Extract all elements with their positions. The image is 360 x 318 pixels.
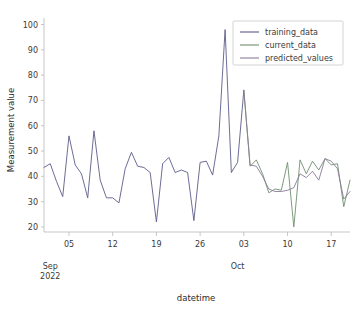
y-axis-title: Measurement value xyxy=(6,88,16,172)
x-year-label: 2022 xyxy=(40,272,60,281)
chart-container: 2030405060708090100 05121926031017 Sep20… xyxy=(0,0,360,318)
legend-label-training-data[interactable]: training_data xyxy=(265,28,318,37)
y-tick-label: 30 xyxy=(28,198,38,207)
y-tick-label: 60 xyxy=(28,122,38,131)
x-tick-label: 10 xyxy=(282,240,292,249)
x-axis: 05121926031017 xyxy=(44,232,350,249)
y-tick-label: 50 xyxy=(28,147,38,156)
y-tick-label: 80 xyxy=(28,71,38,80)
series-line-training-data xyxy=(44,30,244,222)
x-axis-title: datetime xyxy=(177,293,215,303)
x-tick-label: 03 xyxy=(239,240,249,249)
x-month-label: Oct xyxy=(231,262,245,271)
line-chart: 2030405060708090100 05121926031017 Sep20… xyxy=(0,0,360,318)
y-tick-label: 70 xyxy=(28,96,38,105)
x-tick-label: 05 xyxy=(64,240,74,249)
x-tick-label: 26 xyxy=(195,240,205,249)
y-tick-label: 90 xyxy=(28,46,38,55)
legend-label-predicted-values[interactable]: predicted_values xyxy=(265,54,333,63)
x-tick-label: 17 xyxy=(326,240,336,249)
y-tick-label: 20 xyxy=(28,223,38,232)
legend-label-current-data[interactable]: current_data xyxy=(265,41,316,50)
y-tick-label: 40 xyxy=(28,172,38,181)
series-line-predicted-values xyxy=(244,90,350,199)
y-axis: 2030405060708090100 xyxy=(23,18,44,232)
x-month-label: Sep xyxy=(43,262,58,271)
series-line-current-data xyxy=(244,90,350,227)
x-axis-month-labels: Sep2022Oct xyxy=(40,262,244,281)
y-tick-label: 100 xyxy=(23,21,38,30)
x-tick-label: 12 xyxy=(108,240,118,249)
x-tick-label: 19 xyxy=(151,240,161,249)
chart-legend[interactable]: training_datacurrent_datapredicted_value… xyxy=(233,21,343,65)
